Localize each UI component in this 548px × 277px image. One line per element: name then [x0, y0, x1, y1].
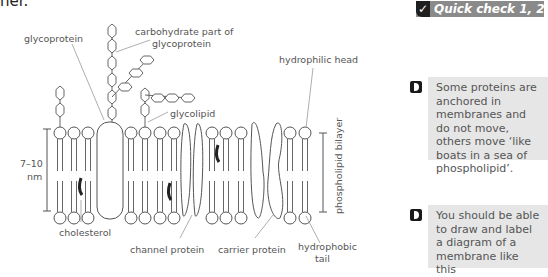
label-carbohydrate-2: glycoprotein: [152, 38, 211, 49]
bullet-arrow-icon: [410, 81, 422, 93]
quick-check-label: Quick check 1, 2: [434, 2, 545, 16]
note-box-2: You should be able to draw and label a d…: [428, 205, 548, 268]
label-cholesterol: cholesterol: [59, 227, 111, 238]
label-hydrophobic-tail: tail: [315, 253, 330, 264]
carrier-protein: [251, 123, 283, 219]
note-box-1: Some proteins are anchored in membranes …: [428, 77, 548, 160]
glycoprotein-body: [97, 122, 123, 219]
label-hydrophilic-head: hydrophilic head: [279, 54, 358, 65]
check-icon: ✓: [416, 1, 430, 17]
bullet-arrow-icon: [410, 209, 422, 221]
label-thickness: 7–10: [20, 158, 43, 169]
thickness-bracket: [43, 129, 51, 211]
note-text: Some proteins are anchored in membranes …: [436, 81, 537, 175]
label-glycoprotein: glycoprotein: [24, 33, 83, 44]
label-hydrophobic: hydrophobic: [298, 241, 357, 252]
cholesterol-molecule: [217, 145, 219, 162]
label-glycolipid: glycolipid: [170, 108, 215, 119]
note-text: You should be able to draw and label a d…: [436, 209, 539, 276]
label-thickness-unit: nm: [27, 171, 42, 182]
membrane-diagram: glycoprotein carbohydrate part of glycop…: [0, 0, 410, 267]
cholesterol-molecule: [80, 178, 82, 195]
cholesterol-molecule: [169, 183, 171, 200]
label-carbohydrate: carbohydrate part of: [135, 26, 234, 37]
bilayer-bracket: [319, 133, 327, 212]
label-bilayer: phospholipid bilayer: [333, 118, 344, 214]
label-channel-protein: channel protein: [130, 244, 204, 255]
label-carrier-protein: carrier protein: [218, 244, 286, 255]
quick-check-badge[interactable]: ✓Quick check 1, 2: [416, 1, 544, 17]
channel-protein: [181, 124, 203, 217]
